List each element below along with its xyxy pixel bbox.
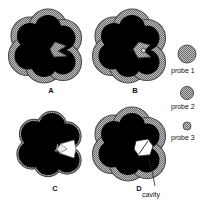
panel-label-a: A xyxy=(41,86,61,95)
probe-circle-small xyxy=(183,122,191,130)
legend-label-probe-3: probe 3 xyxy=(171,134,195,141)
annotation-label-cavity: cavity xyxy=(142,191,160,198)
figure-root: A B C D probe 1 probe 2 probe 3 cavity xyxy=(0,0,212,208)
legend-label-probe-2: probe 2 xyxy=(171,103,195,110)
panel-label-c: C xyxy=(45,184,65,193)
probe-circle-large xyxy=(178,45,196,63)
cavity-region-d xyxy=(134,139,153,156)
probe-sphere-b xyxy=(141,48,145,52)
legend-label-probe-1: probe 1 xyxy=(171,67,195,74)
panel-label-b: B xyxy=(125,86,145,95)
probe-circle-medium xyxy=(181,87,194,100)
